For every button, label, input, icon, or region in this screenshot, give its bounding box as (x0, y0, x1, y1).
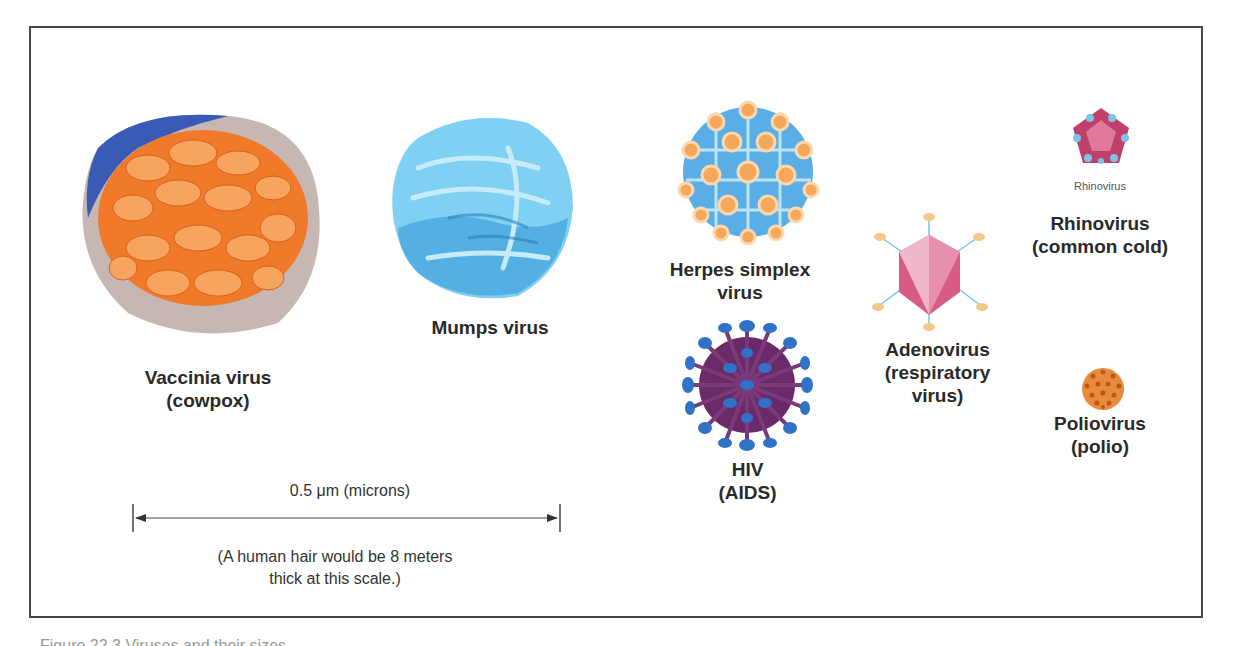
adenovirus-label: Adenovirus(respiratoryvirus) (850, 338, 1025, 407)
mumps-label: Mumps virus (400, 316, 580, 339)
scale-bar-arrow (130, 502, 565, 536)
herpes-virus-illustration (676, 100, 821, 245)
mumps-virus-illustration (388, 108, 578, 303)
vaccinia-virus-illustration (78, 108, 328, 343)
vaccinia-label: Vaccinia virus(cowpox) (108, 366, 308, 412)
poliovirus-illustration (1080, 366, 1126, 412)
rhinovirus-illustration (1070, 106, 1132, 168)
scale-bar-label: 0.5 μm (microns) (200, 480, 500, 502)
rhinovirus-label: Rhinovirus(common cold) (1010, 212, 1190, 258)
scale-bar-note: (A human hair would be 8 metersthick at … (160, 546, 510, 590)
herpes-label: Herpes simplexvirus (650, 258, 830, 304)
figure-caption: Figure 22.3 Viruses and their sizes (40, 634, 286, 646)
poliovirus-label: Poliovirus(polio) (1020, 412, 1180, 458)
rhinovirus-small-label: Rhinovirus (1050, 180, 1150, 192)
adenovirus-illustration (872, 210, 992, 335)
hiv-virus-illustration (680, 318, 815, 453)
hiv-label: HIV(AIDS) (660, 458, 835, 504)
